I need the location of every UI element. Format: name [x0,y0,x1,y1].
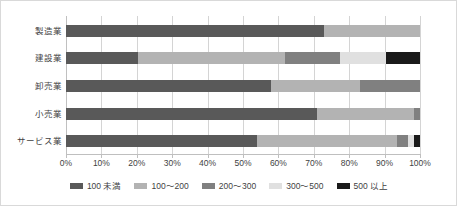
bar-segment[interactable] [324,25,420,37]
x-tick-label: 80% [329,158,369,169]
bar-segment[interactable] [138,52,285,64]
legend-item[interactable]: 100 未満 [70,181,122,191]
bar-segment[interactable] [285,52,340,64]
bar-row[interactable] [66,52,420,64]
x-tick-label: 100% [400,158,440,169]
x-tick-label: 30% [152,158,192,169]
x-tick-label: 40% [188,158,228,169]
x-tick-label: 60% [258,158,298,169]
bar-segment[interactable] [397,135,408,147]
legend-item[interactable]: 500 以上 [337,181,389,191]
x-tick-label: 90% [365,158,405,169]
bar-row[interactable] [66,108,420,120]
bar-segment[interactable] [414,108,420,120]
category-label: 小売業 [0,108,62,120]
legend-swatch [202,183,215,189]
bar-segment[interactable] [360,80,420,92]
bar-row[interactable] [66,25,420,37]
bar-segment[interactable] [66,25,324,37]
legend-item[interactable]: 100〜200 [134,181,188,191]
legend-label: 100 未満 [87,181,122,191]
bar-segment[interactable] [66,135,257,147]
bar-row[interactable] [66,80,420,92]
legend-swatch [269,183,282,189]
legend-label: 300〜500 [286,181,323,191]
bar-row[interactable] [66,135,420,147]
x-tick-label: 20% [117,158,157,169]
bar-segment[interactable] [66,108,317,120]
category-label: サービス業 [0,135,62,147]
bar-segment[interactable] [340,52,386,64]
category-label: 建設業 [0,52,62,64]
category-label: 卸売業 [0,80,62,92]
x-tick-label: 0% [46,158,86,169]
category-label: 製造業 [0,25,62,37]
bar-segment[interactable] [66,80,271,92]
legend-label: 100〜200 [151,181,188,191]
chart-legend: 100 未満100〜200200〜300300〜500500 以上 [0,181,458,191]
legend-item[interactable]: 200〜300 [202,181,256,191]
bar-segment[interactable] [414,135,420,147]
legend-item[interactable]: 300〜500 [269,181,323,191]
plot-area: 製造業建設業卸売業小売業サービス業 [66,16,420,154]
bar-segment[interactable] [386,52,420,64]
legend-label: 200〜300 [219,181,256,191]
bar-segment[interactable] [317,108,414,120]
stacked-bar-chart: 製造業建設業卸売業小売業サービス業 0%10%20%30%40%50%60%70… [0,0,458,207]
bar-segment[interactable] [271,80,360,92]
x-tick-label: 70% [294,158,334,169]
legend-swatch [70,183,83,189]
legend-label: 500 以上 [354,181,389,191]
bar-segment[interactable] [66,52,138,64]
legend-swatch [134,183,147,189]
bar-segment[interactable] [257,135,397,147]
legend-swatch [337,183,350,189]
x-tick-label: 10% [81,158,121,169]
x-tick-label: 50% [223,158,263,169]
gridline-100pct [420,16,421,154]
